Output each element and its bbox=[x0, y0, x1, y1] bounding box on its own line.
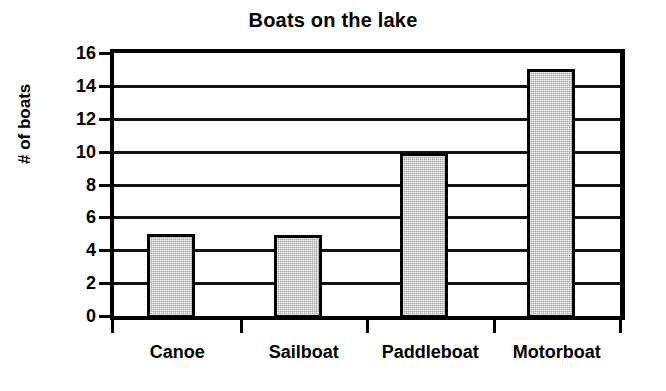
x-axis-tick-label: Paddleboat bbox=[357, 341, 504, 363]
x-axis-tick bbox=[111, 320, 114, 333]
y-axis-tick-label: 10 bbox=[56, 143, 96, 161]
bar bbox=[274, 235, 322, 318]
plot-area bbox=[110, 49, 625, 320]
y-axis-tick-label-wrap: 2 bbox=[52, 274, 96, 292]
y-axis-tick-label-wrap: 16 bbox=[52, 44, 96, 62]
y-axis-tick-label-wrap: 0 bbox=[52, 307, 96, 325]
x-axis-tick-label: Motorboat bbox=[484, 341, 631, 363]
y-axis-tick-label: 14 bbox=[56, 77, 96, 95]
x-axis-tick bbox=[240, 320, 243, 333]
y-axis-tick-label: 6 bbox=[56, 208, 96, 226]
y-axis-tick-label-wrap: 6 bbox=[52, 208, 96, 226]
bar bbox=[147, 234, 195, 318]
x-axis-tick bbox=[366, 320, 369, 333]
y-axis-tick-label-wrap: 14 bbox=[52, 77, 96, 95]
bar bbox=[527, 69, 575, 318]
bar bbox=[400, 153, 448, 318]
bar-chart: Boats on the lake # of boats 02468101214… bbox=[0, 0, 666, 391]
y-axis-label: # of boats bbox=[14, 24, 36, 164]
x-axis-tick bbox=[493, 320, 496, 333]
y-axis-tick-label: 12 bbox=[56, 110, 96, 128]
x-axis-tick bbox=[619, 320, 622, 333]
y-axis-tick-label-wrap: 10 bbox=[52, 143, 96, 161]
x-axis-tick-label: Sailboat bbox=[231, 341, 378, 363]
y-axis-tick-label: 2 bbox=[56, 274, 96, 292]
y-axis-tick-label-wrap: 4 bbox=[52, 241, 96, 259]
x-axis-tick-label: Canoe bbox=[104, 341, 251, 363]
y-axis-tick-label: 16 bbox=[56, 44, 96, 62]
y-axis-tick-label-wrap: 12 bbox=[52, 110, 96, 128]
y-axis-tick-label: 4 bbox=[56, 241, 96, 259]
y-axis-tick-label: 8 bbox=[56, 176, 96, 194]
chart-title: Boats on the lake bbox=[0, 8, 666, 32]
y-axis-tick-label-wrap: 8 bbox=[52, 176, 96, 194]
y-axis-tick-label: 0 bbox=[56, 307, 96, 325]
